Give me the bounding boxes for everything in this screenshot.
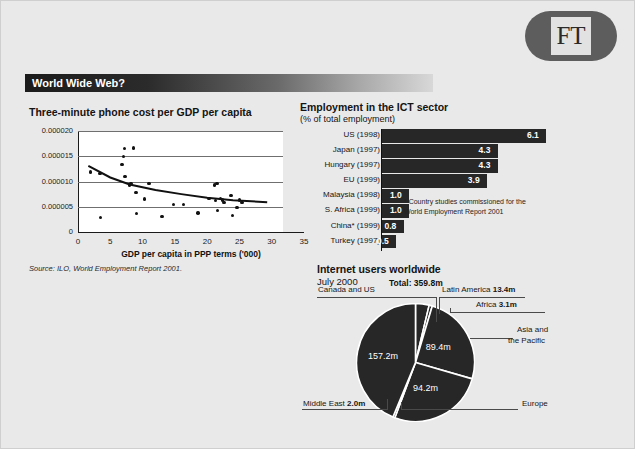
scatter-gridline xyxy=(78,182,283,183)
scatter-point xyxy=(98,172,101,175)
bar-value-label: 0.5 xyxy=(377,236,389,246)
pie-label-africa-text: Africa xyxy=(476,300,499,309)
bar-value-label: 4.3 xyxy=(479,160,491,170)
scatter-point xyxy=(147,182,150,185)
leader-line-africa-v xyxy=(450,308,451,313)
bar-value-label: 3.9 xyxy=(468,175,480,185)
bar-category-label: Hungary (1997) xyxy=(270,160,380,169)
scatter-x-tick-label: 10 xyxy=(133,237,153,246)
bar-chart-row: Hungary (1997)4.3 xyxy=(300,159,550,173)
scatter-point xyxy=(229,194,232,197)
leader-line-asia-h xyxy=(470,338,513,339)
bar-chart: Employment in the ICT sector (% of total… xyxy=(300,101,550,241)
leader-line-middle-east-h xyxy=(302,409,388,410)
bar-value-label: 6.1 xyxy=(527,130,539,140)
scatter-point xyxy=(143,197,146,200)
pie-label-latin-america-value: 13.4m xyxy=(493,285,516,294)
pie-label-latin-america-text: Latin America xyxy=(442,285,493,294)
scatter-point xyxy=(132,146,135,149)
bar-chart-subtitle: (% of total employment) xyxy=(300,114,395,124)
leader-line-canada-us-v xyxy=(436,297,437,322)
bar-chart-footnote: * Country studies commissioned for the W… xyxy=(404,197,539,217)
bar-value-label: 0.8 xyxy=(385,221,397,231)
pie-slice-value-europe: 94.2m xyxy=(413,383,438,393)
bar-category-label: EU (1999) xyxy=(270,175,380,184)
pie-slice-value-canada-us: 157.2m xyxy=(368,351,398,361)
header-title-bar: World Wide Web? xyxy=(25,74,433,92)
scatter-gridline xyxy=(78,131,283,132)
scatter-point xyxy=(196,211,199,214)
pie-chart-title: Internet users worldwide xyxy=(317,263,441,275)
scatter-y-tick-label: 0 xyxy=(25,227,73,236)
scatter-y-tick-label: 0.000015 xyxy=(25,151,73,160)
scatter-gridline xyxy=(78,207,283,208)
pie-slice-value-asia: 89.4m xyxy=(426,342,451,352)
leader-line-canada-us-h xyxy=(317,297,437,298)
pie-label-latin-america: Latin America 13.4m xyxy=(442,285,515,294)
scatter-x-tick-label: 0 xyxy=(68,237,88,246)
scatter-chart-title: Three-minute phone cost per GDP per capi… xyxy=(29,106,252,118)
bar-value-label: 1.0 xyxy=(390,205,402,215)
scatter-y-tick-label: 0.000010 xyxy=(25,177,73,186)
leader-line-europe-v xyxy=(401,402,402,410)
scatter-x-tick-label: 20 xyxy=(197,237,217,246)
scatter-point xyxy=(160,215,163,218)
pie-label-middle-east-text: Middle East xyxy=(303,399,347,408)
bar-chart-title: Employment in the ICT sector xyxy=(300,101,448,113)
scatter-point xyxy=(235,206,238,209)
scatter-source-note: Source: ILO, World Employment Report 200… xyxy=(29,264,182,273)
leader-line-latin-v xyxy=(439,297,440,314)
pie-graphic: 157.2m 89.4m 94.2m xyxy=(356,303,475,422)
infographic-page: FT World Wide Web? Three-minute phone co… xyxy=(0,0,635,449)
bar-category-label: Turkey (1997) xyxy=(270,236,380,245)
scatter-point xyxy=(89,170,92,173)
bar-chart-row: EU (1999)3.9 xyxy=(300,174,550,188)
pie-label-africa: Africa 3.1m xyxy=(476,300,517,309)
scatter-point xyxy=(231,214,234,217)
pie-label-africa-value: 3.1m xyxy=(499,300,517,309)
scatter-point xyxy=(120,163,123,166)
bar-chart-rows: US (1998)6.1Japan (1997)4.3Hungary (1997… xyxy=(300,129,550,250)
bar-chart-row: Turkey (1997)0.5 xyxy=(300,235,550,249)
leader-line-latin-h xyxy=(439,297,525,298)
bar-category-label: US (1998) xyxy=(270,130,380,139)
pie-slices xyxy=(356,303,475,422)
pie-label-asia-line1: Asia and xyxy=(517,325,548,334)
scatter-point xyxy=(215,182,218,185)
pie-label-middle-east: Middle East 2.0m xyxy=(303,399,365,408)
scatter-x-tick-label: 25 xyxy=(229,237,249,246)
scatter-point xyxy=(129,182,132,185)
bar-fill xyxy=(382,129,546,143)
bar-category-label: S. Africa (1999) xyxy=(270,205,380,214)
bar-category-label: China* (1999) xyxy=(270,221,380,230)
ft-logo-text: FT xyxy=(551,17,591,55)
scatter-x-tick-label: 5 xyxy=(100,237,120,246)
pie-label-canada-us: Canada and US xyxy=(318,285,375,294)
scatter-chart: 00.0000050.0000100.0000150.000020 051015… xyxy=(25,125,295,253)
bar-value-label: 4.3 xyxy=(479,145,491,155)
scatter-point xyxy=(122,155,125,158)
scatter-x-axis xyxy=(78,232,304,233)
bar-category-label: Japan (1997) xyxy=(270,145,380,154)
scatter-point xyxy=(182,203,185,206)
pie-label-asia-line2: the Pacific xyxy=(508,336,545,345)
leader-line-africa-h xyxy=(450,312,545,313)
bar-chart-row: US (1998)6.1 xyxy=(300,129,550,143)
bar-chart-row: Japan (1997)4.3 xyxy=(300,144,550,158)
bar-category-label: Malaysia (1998) xyxy=(270,190,380,199)
leader-line-middle-east-v xyxy=(387,399,388,410)
ft-logo: FT xyxy=(525,11,617,61)
pie-label-middle-east-value: 2.0m xyxy=(347,399,365,408)
scatter-y-tick-label: 0.000005 xyxy=(25,202,73,211)
scatter-x-tick-label: 15 xyxy=(165,237,185,246)
scatter-gridline xyxy=(78,156,283,157)
leader-line-europe-h xyxy=(401,409,518,410)
pie-chart-total: Total: 359.8m xyxy=(389,278,443,288)
scatter-y-tick-label: 0.000020 xyxy=(25,126,73,135)
pie-chart: Internet users worldwide July 2000 Total… xyxy=(300,263,600,438)
pie-label-europe: Europe xyxy=(522,399,548,408)
page-title: World Wide Web? xyxy=(32,77,125,89)
bar-chart-row: China* (1999)0.8 xyxy=(300,220,550,234)
scatter-x-axis-label: GDP per capita in PPP terms ('000) xyxy=(78,249,304,259)
scatter-point xyxy=(123,175,126,178)
